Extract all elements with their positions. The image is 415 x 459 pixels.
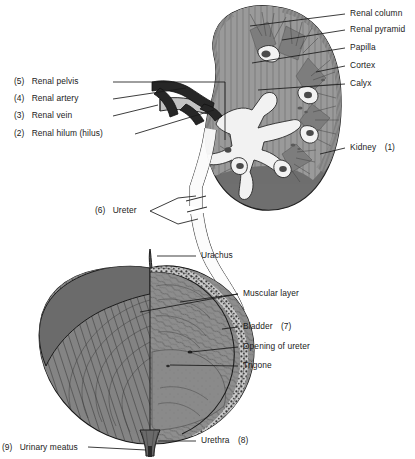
label-urethra-text: Urethra [201,435,230,445]
label-renal-hilum-text: Renal hilum (hilus) [32,128,103,138]
bladder-muscle-left [30,262,155,452]
label-ureter-number: (6) [95,205,105,215]
label-muscular-layer: Muscular layer [243,289,299,298]
label-renal-artery-text: Renal artery [32,93,79,103]
urachus-apex [149,249,152,268]
label-kidney-text: Kidney [350,142,376,152]
label-kidney: Kidney (1) [350,143,395,152]
label-urinary-meatus: (9) Urinary meatus [2,443,78,452]
bladder-interior-right [148,262,258,452]
label-renal-artery-number: (4) [14,93,24,103]
label-bladder: Bladder (7) [243,322,291,331]
label-renal-hilum: (2) Renal hilum (hilus) [14,129,103,138]
urinary-system-diagram: Renal column Renal pyramid Papilla Corte… [0,0,415,459]
label-renal-hilum-number: (2) [14,128,24,138]
leader-ureter-upper [150,196,196,211]
label-renal-vein-number: (3) [14,110,24,120]
urinary-meatus-mark [148,446,152,457]
label-renal-column: Renal column [350,9,402,18]
leader-urinary-meatus [88,447,146,450]
leader-ureter-lower [150,211,198,224]
label-ureter: (6) Ureter [95,206,137,215]
label-renal-vein: (3) Renal vein [14,111,72,120]
label-renal-vein-text: Renal vein [32,110,73,120]
label-cortex: Cortex [350,61,375,70]
label-bladder-number: (7) [281,321,291,331]
label-calyx: Calyx [350,79,371,88]
label-renal-pyramid: Renal pyramid [350,25,405,34]
label-urethra: Urethra (8) [201,436,248,445]
label-urinary-meatus-number: (9) [2,442,12,452]
label-trigone: Trigone [243,361,272,370]
label-kidney-number: (1) [385,142,395,152]
label-bladder-text: Bladder [243,321,273,331]
label-renal-pelvis: (5) Renal pelvis [14,77,79,86]
kidney-illustration [152,5,341,312]
label-urethra-number: (8) [238,435,248,445]
label-papilla: Papilla [350,43,376,52]
label-ureter-text: Ureter [113,205,137,215]
label-renal-artery: (4) Renal artery [14,94,79,103]
label-urinary-meatus-text: Urinary meatus [20,442,78,452]
label-urachus: Urachus [201,251,233,260]
leader-renal-vein [113,105,158,116]
label-opening-of-ureter: Opening of ureter [243,342,310,351]
label-renal-pelvis-number: (5) [14,76,24,86]
label-renal-pelvis-text: Renal pelvis [32,76,79,86]
